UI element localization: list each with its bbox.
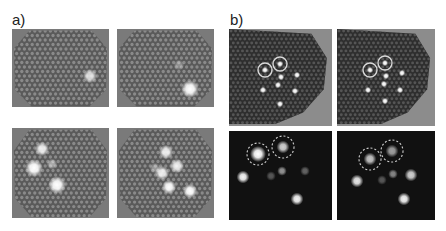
panel-graphic bbox=[337, 131, 435, 220]
image-b-bottom-left bbox=[229, 131, 332, 220]
panel-label-b: b) bbox=[230, 12, 243, 27]
panel-graphic bbox=[12, 128, 109, 218]
panel-graphic bbox=[337, 29, 435, 126]
image-a-top-left bbox=[12, 29, 109, 107]
image-b-top-right bbox=[337, 29, 435, 126]
image-a-bottom-right bbox=[117, 128, 214, 218]
panel-graphic bbox=[229, 131, 332, 220]
panel-label-a: a) bbox=[12, 12, 25, 27]
panel-graphic bbox=[117, 29, 214, 107]
image-b-bottom-right bbox=[337, 131, 435, 220]
image-a-bottom-left bbox=[12, 128, 109, 218]
panel-graphic bbox=[117, 128, 214, 218]
image-b-top-left bbox=[229, 29, 332, 126]
panel-graphic bbox=[12, 29, 109, 107]
image-a-top-right bbox=[117, 29, 214, 107]
panel-graphic bbox=[229, 29, 332, 126]
